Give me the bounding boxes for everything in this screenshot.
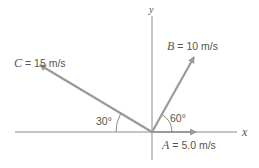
vector-diagram: x y 60° 30° A= 5.0 m/s B= 10 m/s C= 15 m… bbox=[0, 0, 259, 168]
vector-a-magnitude: = 5.0 m/s bbox=[172, 139, 215, 151]
vector-c-magnitude: = 15 m/s bbox=[25, 57, 66, 69]
vector-b-label: B= 10 m/s bbox=[167, 39, 218, 53]
x-axis-label: x bbox=[241, 125, 248, 139]
angle-arc-30 bbox=[116, 114, 121, 132]
vector-b-magnitude: = 10 m/s bbox=[177, 40, 218, 52]
vector-c-label: C= 15 m/s bbox=[14, 56, 66, 70]
vector-b-name: B bbox=[167, 39, 175, 53]
angle-label-30: 30° bbox=[96, 115, 112, 127]
vector-a-name: A bbox=[161, 138, 170, 152]
angle-label-60: 60° bbox=[170, 112, 186, 124]
vector-a-label: A= 5.0 m/s bbox=[161, 138, 216, 152]
vector-c-name: C bbox=[14, 56, 23, 70]
y-axis-label: y bbox=[148, 4, 154, 15]
